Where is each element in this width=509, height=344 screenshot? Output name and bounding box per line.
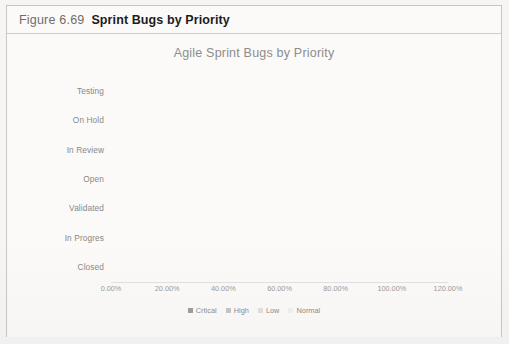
chart-legend: CrticalHighLowNormal [7,306,501,315]
category-label: In Review [67,145,104,155]
category-label: In Progres [65,233,104,243]
x-axis-ticks: 0.00%20.00%40.00%60.00%80.00%100.00%120.… [111,284,448,298]
legend-label: Low [266,306,280,315]
legend-swatch-icon [258,308,263,313]
legend-item[interactable]: Crtical [188,306,217,315]
category-label: Validated [69,203,104,213]
x-tick-label: 20.00% [155,284,180,293]
chart-title: Agile Sprint Bugs by Priority [7,46,501,60]
bar-rows: TestingOn HoldIn ReviewOpenValidatedIn P… [111,76,448,282]
legend-swatch-icon [188,308,193,313]
chart-container: Agile Sprint Bugs by Priority TestingOn … [7,34,501,337]
legend-item[interactable]: High [226,306,249,315]
legend-swatch-icon [288,308,293,313]
bar-row: In Review [111,144,448,155]
figure-caption-title: Sprint Bugs by Priority [91,13,229,27]
bar-row: Testing [111,85,448,96]
bar-row: On Hold [111,115,448,126]
plot-area: TestingOn HoldIn ReviewOpenValidatedIn P… [111,76,448,282]
figure-caption-bar: Figure 6.69 Sprint Bugs by Priority [7,6,501,34]
x-tick-label: 100.00% [377,284,406,293]
bar-row: In Progres [111,232,448,243]
category-label: Open [83,174,104,184]
x-tick-label: 120.00% [434,284,463,293]
bar-row: Open [111,174,448,185]
figure-frame: Figure 6.69 Sprint Bugs by Priority Agil… [6,5,502,337]
bar-row: Closed [111,262,448,273]
x-tick-label: 60.00% [267,284,292,293]
x-axis-line [111,282,448,283]
scanned-page: Figure 6.69 Sprint Bugs by Priority Agil… [0,0,509,344]
figure-number: Figure 6.69 [19,13,84,27]
x-tick-label: 80.00% [323,284,348,293]
category-label: Testing [77,86,104,96]
legend-item[interactable]: Normal [288,306,320,315]
category-label: Closed [78,262,104,272]
legend-label: Crtical [196,306,217,315]
legend-item[interactable]: Low [258,306,280,315]
legend-swatch-icon [226,308,231,313]
category-label: On Hold [73,115,104,125]
legend-label: Normal [296,306,320,315]
bar-row: Validated [111,203,448,214]
legend-label: High [234,306,249,315]
x-tick-label: 40.00% [211,284,236,293]
x-tick-label: 0.00% [101,284,122,293]
